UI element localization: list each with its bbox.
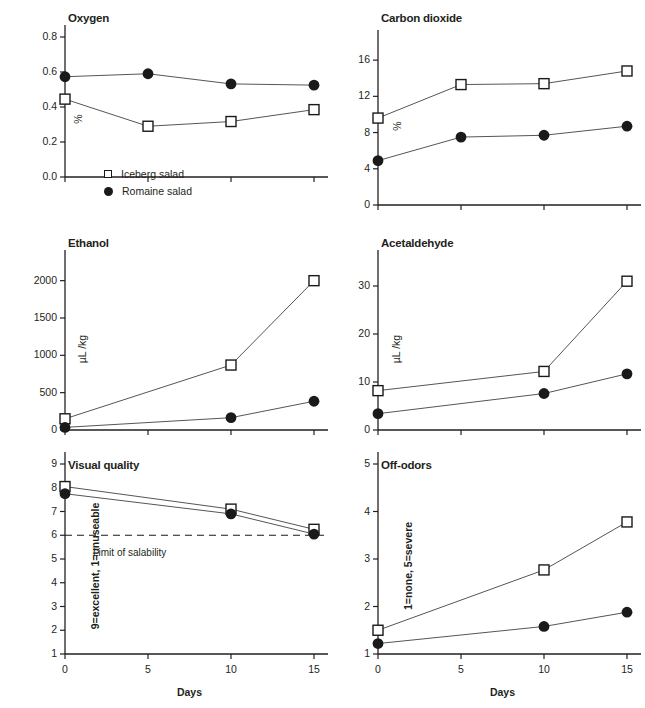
xtick-off-odors-2: 10: [524, 663, 564, 675]
data-point-off-odors-romaine-2: [622, 607, 633, 618]
data-point-off-odors-iceberg-0: [373, 625, 383, 635]
ytick-off-odors-0: 1: [320, 647, 370, 659]
xtick-off-odors-0: 0: [358, 663, 398, 675]
ytick-off-odors-2: 3: [320, 552, 370, 564]
ytick-off-odors-4: 5: [320, 457, 370, 469]
y-axis-label-off-odors: 1=none, 5=severe: [402, 461, 414, 671]
xtick-off-odors-3: 15: [607, 663, 645, 675]
data-point-off-odors-romaine-0: [373, 638, 384, 649]
data-point-off-odors-iceberg-2: [622, 517, 632, 527]
xtick-off-odors-1: 5: [441, 663, 481, 675]
ytick-off-odors-1: 2: [320, 600, 370, 612]
ytick-off-odors-3: 4: [320, 505, 370, 517]
x-axis-label-off-odors: Days: [338, 686, 645, 698]
data-point-off-odors-romaine-1: [539, 621, 550, 632]
data-point-off-odors-iceberg-1: [539, 565, 549, 575]
